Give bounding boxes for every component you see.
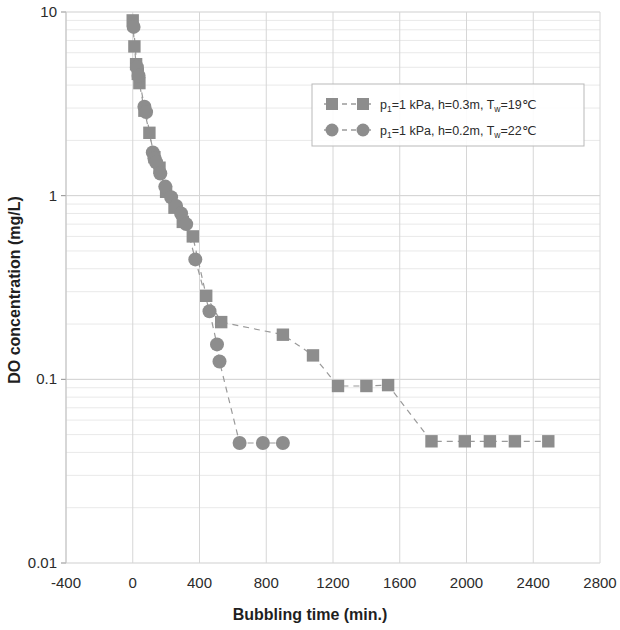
- legend-marker-square-left: [326, 98, 338, 110]
- legend-1-tail: =19℃: [500, 98, 536, 112]
- legend-1-mid: =1 kPa, h=0.3m, T: [392, 98, 495, 112]
- legend-2-mid: =1 kPa, h=0.2m, T: [392, 124, 495, 138]
- data-point-square: [277, 329, 289, 341]
- data-point-circle: [213, 355, 227, 369]
- legend-marker-circle-left: [326, 124, 339, 137]
- legend-2-tail: =22℃: [500, 124, 536, 138]
- y-tick-label: 10: [40, 3, 57, 20]
- data-point-square: [425, 435, 437, 447]
- data-point-square: [382, 379, 394, 391]
- data-point-circle: [276, 436, 290, 450]
- axis-lines: [61, 12, 66, 563]
- y-axis-tick-labels: 1010.10.01: [28, 3, 57, 571]
- series-data-markers: [127, 14, 555, 450]
- data-point-square: [509, 435, 521, 447]
- x-tick-label: 400: [187, 574, 212, 591]
- data-point-square: [200, 290, 212, 302]
- data-point-circle: [132, 69, 146, 83]
- chart-figure: -400040080012001600200024002800 1010.10.…: [0, 0, 620, 630]
- data-point-square: [459, 435, 471, 447]
- x-tick-label: 1200: [316, 574, 349, 591]
- data-point-circle: [233, 436, 247, 450]
- data-point-square: [484, 435, 496, 447]
- data-point-square: [307, 349, 319, 361]
- legend-label-series-2: p1=1 kPa, h=0.2m, Tw=22℃: [380, 124, 537, 140]
- y-axis-title: DO concentration (mg/L): [6, 196, 23, 384]
- legend-label-series-1: p1=1 kPa, h=0.3m, Tw=19℃: [380, 98, 537, 114]
- y-tick-label: 0.1: [36, 370, 57, 387]
- x-tick-label: 2000: [450, 574, 483, 591]
- legend-2-p: p: [380, 124, 387, 138]
- data-point-circle: [127, 20, 141, 34]
- data-point-circle: [203, 304, 217, 318]
- data-point-square: [332, 380, 344, 392]
- chart-legend: p1=1 kPa, h=0.3m, Tw=19℃ p1=1 kPa, h=0.2…: [312, 84, 584, 146]
- data-point-square: [542, 435, 554, 447]
- legend-marker-circle-right: [357, 124, 370, 137]
- data-point-circle: [179, 217, 193, 231]
- data-point-circle: [153, 167, 167, 181]
- x-tick-label: -400: [51, 574, 81, 591]
- data-point-square: [128, 40, 140, 52]
- x-tick-label: 2800: [583, 574, 616, 591]
- data-point-square: [360, 380, 372, 392]
- y-tick-label: 1: [49, 187, 57, 204]
- data-point-circle: [188, 252, 202, 266]
- y-tick-label: 0.01: [28, 554, 57, 571]
- x-axis-title: Bubbling time (min.): [233, 606, 388, 623]
- data-point-square: [143, 127, 155, 139]
- legend-1-p: p: [380, 98, 387, 112]
- x-tick-label: 800: [254, 574, 279, 591]
- x-tick-label: 2400: [517, 574, 550, 591]
- data-point-circle: [256, 436, 270, 450]
- scatter-log-plot: -400040080012001600200024002800 1010.10.…: [0, 0, 620, 630]
- data-point-square: [215, 316, 227, 328]
- data-point-square: [187, 230, 199, 242]
- data-point-circle: [210, 337, 224, 351]
- x-tick-label: 0: [129, 574, 137, 591]
- x-axis-tick-labels: -400040080012001600200024002800: [51, 574, 617, 591]
- data-point-circle: [139, 105, 153, 119]
- series-line-2: [134, 27, 283, 443]
- legend-marker-square-right: [357, 98, 369, 110]
- x-tick-label: 1600: [383, 574, 416, 591]
